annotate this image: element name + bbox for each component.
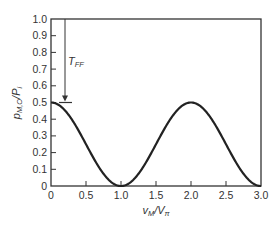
- data-series-line: [51, 103, 261, 187]
- y-tick-label: 0: [41, 180, 47, 192]
- plot-frame: [51, 19, 261, 186]
- x-tick-label: 1.0: [114, 189, 129, 201]
- x-tick-label: 2.5: [219, 189, 234, 201]
- line-chart: 00.10.20.30.40.50.60.70.80.91.0 00.51.01…: [0, 0, 276, 231]
- y-tick-label: 0.1: [32, 163, 47, 175]
- tff-arrowhead-icon: [62, 96, 68, 102]
- y-tick-label: 0.4: [32, 113, 47, 125]
- y-tick-label: 1.0: [32, 13, 47, 25]
- x-tick-label: 2.0: [184, 189, 199, 201]
- x-tick-label: 3.0: [254, 189, 269, 201]
- y-tick-label: 0.8: [32, 46, 47, 58]
- y-tick-label: 0.2: [32, 146, 47, 158]
- x-tick-label: 0: [48, 189, 54, 201]
- y-tick-label: 0.5: [32, 96, 47, 108]
- y-tick-label: 0.3: [32, 129, 47, 141]
- tff-label: TFF: [68, 55, 84, 69]
- x-tick-label: 1.5: [149, 189, 164, 201]
- y-tick-label: 0.6: [32, 79, 47, 91]
- x-axis-title: vM/Vπ: [142, 204, 170, 218]
- x-tick-label: 0.5: [79, 189, 94, 201]
- y-tick-label: 0.7: [32, 63, 47, 75]
- x-axis: 00.51.01.52.02.53.0: [48, 181, 268, 201]
- y-axis-title: pM,O/Pi: [10, 86, 24, 120]
- y-tick-label: 0.9: [32, 29, 47, 41]
- tff-annotation: TFF: [59, 19, 84, 103]
